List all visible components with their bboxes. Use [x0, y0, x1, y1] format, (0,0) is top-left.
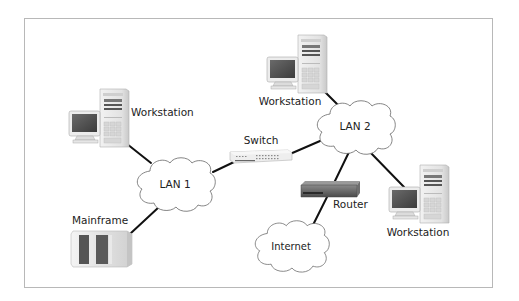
mainframe: Mainframe	[71, 214, 132, 267]
workstation-left-label: Workstation	[131, 106, 194, 118]
mainframe-label: Mainframe	[72, 214, 128, 226]
workstation-right: Workstation	[387, 165, 450, 238]
workstation-right-label: Workstation	[387, 226, 450, 238]
switch-icon	[230, 150, 292, 163]
line-mainframe-lan1	[131, 207, 159, 233]
workstation-left: Workstation	[69, 89, 194, 147]
line-lan2-router	[334, 152, 349, 183]
network-diagram: LAN 1 LAN 2 Internet Workstation Worksta…	[0, 0, 519, 301]
workstation-icon	[389, 165, 449, 223]
switch: Switch	[230, 134, 292, 163]
workstation-top-label: Workstation	[259, 95, 322, 107]
line-lan1-switch	[213, 162, 234, 172]
lan2-cloud: LAN 2	[317, 101, 395, 155]
mainframe-icon	[71, 231, 132, 267]
line-router-internet	[313, 197, 327, 225]
lan1-cloud: LAN 1	[137, 158, 215, 212]
line-switch-lan2	[290, 141, 320, 154]
router-icon	[301, 181, 360, 197]
line-lan2-workstation-right	[368, 150, 404, 187]
internet-label: Internet	[271, 241, 311, 252]
workstation-icon	[267, 35, 327, 93]
lan2-label: LAN 2	[339, 120, 370, 132]
lan1-label: LAN 1	[159, 178, 190, 190]
router-label: Router	[333, 198, 368, 210]
workstation-top: Workstation	[259, 35, 327, 107]
router: Router	[301, 181, 368, 210]
switch-label: Switch	[244, 134, 279, 146]
internet-cloud: Internet	[255, 221, 329, 272]
workstation-icon	[69, 89, 129, 147]
